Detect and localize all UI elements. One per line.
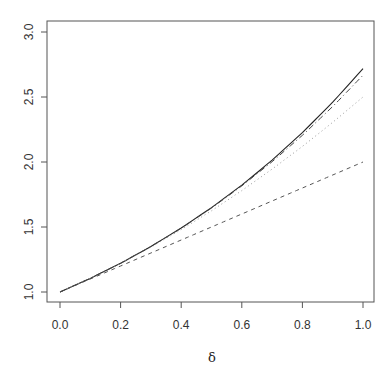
- y-tick-label: 2.5: [22, 88, 36, 105]
- plot-frame: [47, 21, 374, 302]
- x-tick-label: 0.8: [294, 318, 311, 332]
- x-axis-title: δ: [208, 350, 216, 365]
- x-tick-label: 0.6: [233, 318, 250, 332]
- y-tick-label: 2.0: [22, 153, 36, 170]
- x-tick-label: 0.2: [112, 318, 129, 332]
- series-dotted-line: [60, 97, 363, 292]
- y-tick-label: 3.0: [22, 23, 36, 40]
- x-tick-label: 1.0: [355, 318, 372, 332]
- x-tick-label: 0.4: [173, 318, 190, 332]
- series-lines: [60, 69, 363, 292]
- line-chart: 0.00.20.40.60.81.0 1.01.52.02.53.0 δ: [0, 0, 391, 376]
- series-dashed-line: [60, 162, 363, 292]
- x-axis: 0.00.20.40.60.81.0: [52, 302, 372, 332]
- y-tick-label: 1.5: [22, 218, 36, 235]
- y-axis: 1.01.52.02.53.0: [22, 23, 47, 300]
- series-dashdot-line: [60, 75, 363, 292]
- series-solid-line: [60, 69, 363, 292]
- x-tick-label: 0.0: [52, 318, 69, 332]
- y-tick-label: 1.0: [22, 283, 36, 300]
